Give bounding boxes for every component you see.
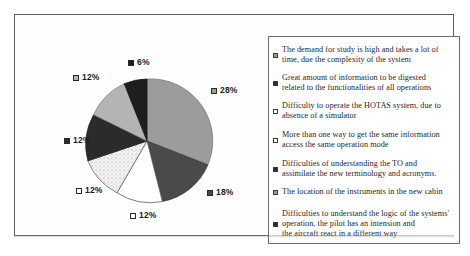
legend: The demand for study is high and takes a… <box>268 36 460 244</box>
pie-label-28: 28% <box>211 85 238 95</box>
legend-item-label: Great amount of information to be digest… <box>282 73 431 93</box>
pie-label-12-black: 12% <box>64 135 91 145</box>
legend-swatch-icon <box>273 190 278 195</box>
legend-swatch-icon <box>273 53 278 58</box>
legend-swatch-icon <box>273 167 278 172</box>
legend-item-label: Difficulties of understanding the TO and… <box>282 159 437 179</box>
legend-item-2[interactable]: Difficulty to operate the HOTAS system, … <box>272 101 458 121</box>
legend-item-4[interactable]: Difficulties of understanding the TO and… <box>272 159 458 179</box>
legend-swatch-icon <box>273 138 278 143</box>
pie-label-swatch-icon <box>211 88 217 94</box>
legend-item-6[interactable]: Difficulties to understand the logic of … <box>272 209 458 240</box>
legend-swatch-icon <box>273 222 278 227</box>
pie-label-swatch-icon <box>130 213 136 219</box>
legend-item-label: More than one way to get the same inform… <box>282 130 440 150</box>
legend-swatch-icon <box>273 109 278 114</box>
pie-label-12-white-bottom: 12% <box>130 210 157 220</box>
pie-chart: 28% 18% 12% 12% 12% 12% 6% <box>35 33 255 233</box>
legend-item-label: The demand for study is high and takes a… <box>282 45 439 65</box>
legend-item-label: Difficulties to understand the logic of … <box>282 209 449 240</box>
legend-item-5[interactable]: The location of the instruments in the n… <box>272 187 458 197</box>
pie-label-swatch-icon <box>64 138 70 144</box>
legend-item-label: Difficulty to operate the HOTAS system, … <box>282 101 441 121</box>
pie-label-swatch-icon <box>73 75 79 81</box>
pie-label-18: 18% <box>207 187 234 197</box>
pie-label-6: 6% <box>128 57 150 67</box>
legend-swatch-icon <box>273 81 278 86</box>
figure-root: 28% 18% 12% 12% 12% 12% 6% <box>0 0 470 256</box>
pie-label-swatch-icon <box>207 190 213 196</box>
pie-label-swatch-icon <box>128 60 134 66</box>
figure-frame: 28% 18% 12% 12% 12% 12% 6% <box>14 14 454 236</box>
pie-label-12-ltgray: 12% <box>73 72 100 82</box>
legend-item-1[interactable]: Great amount of information to be digest… <box>272 73 458 93</box>
legend-item-label: The location of the instruments in the n… <box>282 187 443 197</box>
legend-item-3[interactable]: More than one way to get the same inform… <box>272 130 458 150</box>
pie-label-swatch-icon <box>76 188 82 194</box>
legend-item-0[interactable]: The demand for study is high and takes a… <box>272 45 458 65</box>
pie-label-12-speckled: 12% <box>76 185 103 195</box>
